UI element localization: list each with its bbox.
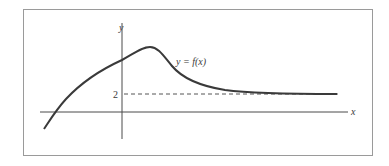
y-axis-label: y <box>118 22 124 33</box>
curve-label: y = f(x) <box>175 56 207 68</box>
asymptote-value-label: 2 <box>113 89 118 100</box>
x-axis-label: x <box>350 106 356 117</box>
function-graph-figure: y x 2 y = f(x) <box>0 0 389 166</box>
